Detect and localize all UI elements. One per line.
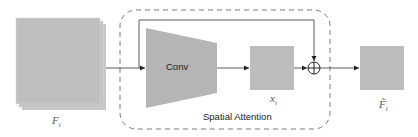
output-feature-label: F̃i (379, 98, 388, 113)
add-operation-icon (308, 62, 320, 74)
input-feature-label-sub: i (59, 121, 61, 129)
input-feature-label: Fi (52, 114, 61, 129)
output-feature-label-main: F̃ (379, 98, 386, 110)
output-feature-label-sub: i (386, 105, 388, 113)
output-feature-block (360, 46, 404, 90)
attention-map-label-sub: i (275, 99, 277, 107)
conv-label: Conv (166, 61, 188, 72)
attention-map-label: xi (270, 92, 277, 107)
input-feature-stack (16, 18, 106, 110)
attention-map-block (250, 46, 294, 90)
input-feature-label-main: F (52, 114, 59, 126)
spatial-attention-label: Spatial Attention (203, 111, 272, 122)
